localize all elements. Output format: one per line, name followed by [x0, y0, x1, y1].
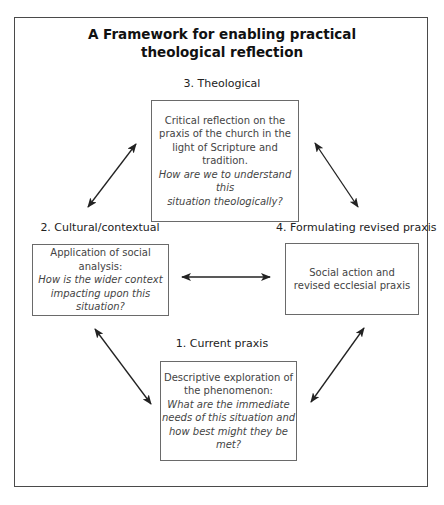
arrow-cultural-theological [88, 144, 136, 207]
arrow-cultural-current [95, 329, 151, 404]
connection-arrows [0, 0, 444, 505]
arrow-theological-revised [315, 143, 358, 207]
arrow-current-revised [311, 328, 364, 402]
